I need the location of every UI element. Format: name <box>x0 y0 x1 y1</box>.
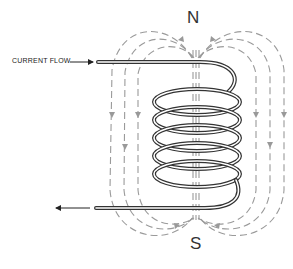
solenoid-drawing <box>0 0 293 269</box>
coil <box>96 62 240 208</box>
north-pole-label: N <box>187 8 199 28</box>
field-line-left-inner <box>138 47 194 224</box>
coil-turns <box>154 89 240 187</box>
south-pole-label: S <box>190 234 201 254</box>
field-line-right-inner <box>198 47 256 224</box>
current-flow-label: CURRENT FLOW <box>12 57 71 64</box>
